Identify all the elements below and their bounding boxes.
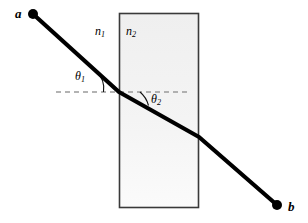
n1-subscript: 1 (101, 30, 105, 39)
refraction-diagram (0, 0, 308, 223)
theta1-subscript: 1 (81, 75, 85, 84)
theta2-subscript: 2 (157, 98, 161, 107)
refractive-index-n1-label: n1 (95, 25, 105, 39)
point-b-marker (272, 200, 282, 210)
refracting-medium-slab (120, 14, 199, 208)
angle-theta1-label: θ1 (75, 70, 85, 84)
refractive-index-n2-label: n2 (126, 25, 136, 39)
point-b-label: b (288, 200, 295, 213)
angle-theta2-label: θ2 (151, 93, 161, 107)
point-a-marker (28, 9, 38, 19)
point-a-label: a (15, 7, 22, 20)
n2-subscript: 2 (132, 30, 136, 39)
